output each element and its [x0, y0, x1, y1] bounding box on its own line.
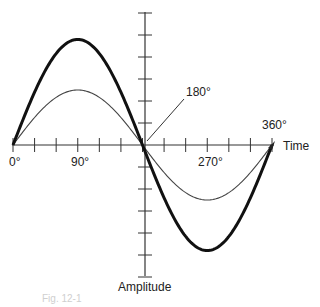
label-180: 180° — [186, 86, 211, 98]
leader-line-180 — [147, 99, 184, 141]
label-0: 0° — [9, 156, 20, 168]
time-axis-label: Time — [283, 140, 309, 152]
label-90: 90° — [71, 156, 89, 168]
figure-caption: Fig. 12-1 — [42, 293, 81, 304]
amplitude-axis-label: Amplitude — [118, 281, 171, 293]
label-360: 360° — [262, 119, 287, 131]
label-270: 270° — [198, 156, 223, 168]
